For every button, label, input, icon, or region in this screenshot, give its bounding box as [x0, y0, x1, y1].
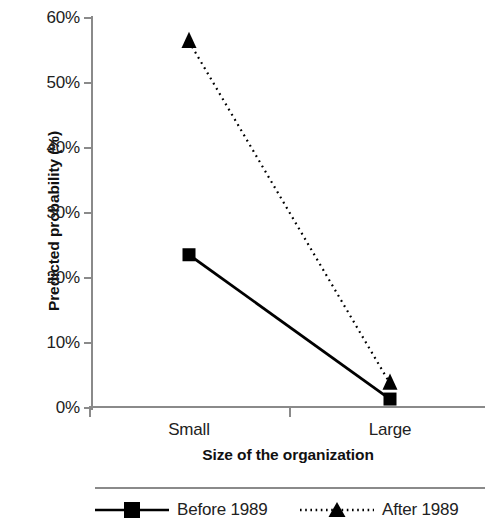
data-point-marker: [384, 393, 397, 406]
y-tick-label-40: 40%: [4, 138, 80, 158]
x-tick-mark-mid: [289, 408, 291, 417]
x-tick-label-large: Large: [340, 420, 440, 440]
y-tick-mark-60: [84, 17, 92, 19]
x-tick-label-small: Small: [139, 420, 239, 440]
x-axis-line: [89, 406, 485, 408]
x-axis-title: Size of the organization: [91, 446, 485, 464]
legend-label-after-1989: After 1989: [382, 500, 458, 520]
series-line-1: [189, 42, 390, 384]
series-line-0: [189, 255, 390, 399]
y-tick-mark-10: [84, 342, 92, 344]
y-tick-mark-40: [84, 147, 92, 149]
y-tick-label-30: 30%: [4, 203, 80, 223]
chart-figure: Predicted probability (%) 60% 50% 40% 30…: [0, 0, 485, 529]
data-point-marker: [182, 32, 197, 48]
y-tick-mark-20: [84, 277, 92, 279]
legend-item-after-1989[interactable]: After 1989: [300, 495, 458, 525]
y-tick-label-10: 10%: [4, 333, 80, 353]
y-tick-mark-30: [84, 212, 92, 214]
triangle-marker-key: [300, 497, 374, 523]
y-tick-label-20: 20%: [4, 268, 80, 288]
y-tick-mark-50: [84, 82, 92, 84]
legend: Before 1989 After 1989: [95, 487, 485, 529]
y-tick-label-0: 0%: [4, 398, 80, 418]
y-tick-label-50: 50%: [4, 73, 80, 93]
y-tick-label-60: 60%: [4, 8, 80, 28]
data-point-marker: [383, 374, 398, 390]
legend-label-before-1989: Before 1989: [177, 500, 267, 520]
legend-item-before-1989[interactable]: Before 1989: [95, 495, 267, 525]
square-marker-key: [95, 497, 169, 523]
x-tick-mark-left: [89, 408, 91, 417]
data-point-marker: [183, 248, 196, 261]
